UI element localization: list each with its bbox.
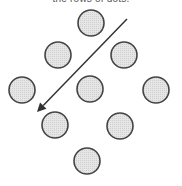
dot-5 <box>77 76 103 102</box>
dot-7 <box>42 112 68 138</box>
dot-2 <box>45 42 71 68</box>
dot-6 <box>143 77 169 103</box>
dot-9 <box>74 148 100 174</box>
dot-group <box>9 10 169 174</box>
dot-4 <box>9 77 35 103</box>
dot-8 <box>107 113 133 139</box>
dot-diamond-diagram <box>0 0 182 186</box>
dot-1 <box>78 10 104 36</box>
dot-3 <box>111 42 137 68</box>
